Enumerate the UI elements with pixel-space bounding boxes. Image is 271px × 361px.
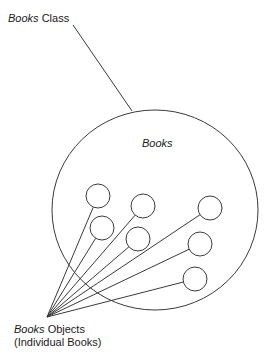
books-class-label-italic: Books — [8, 12, 39, 24]
books-objects-label-normal: Objects — [45, 323, 85, 335]
object-connector-line — [47, 207, 93, 317]
book-object-circle — [198, 196, 222, 220]
book-object-circle — [131, 194, 155, 218]
books-objects-label-italic: Books — [14, 323, 45, 335]
books-class-label: Books Class — [8, 12, 69, 25]
object-connector-lines — [47, 207, 200, 317]
book-object-circle — [90, 216, 114, 240]
books-objects-label: Books Objects (Individual Books) — [14, 323, 101, 349]
class-object-diagram — [0, 0, 271, 361]
book-object-circle — [86, 184, 110, 208]
class-pointer-line — [73, 25, 132, 111]
book-object-circle — [126, 227, 150, 251]
book-object-circle — [188, 232, 212, 256]
book-object-circle — [183, 267, 207, 291]
individual-books-label: (Individual Books) — [14, 336, 101, 349]
books-set-label: Books — [142, 137, 173, 150]
books-class-label-normal: Class — [39, 12, 70, 24]
book-object-circles — [86, 184, 222, 291]
